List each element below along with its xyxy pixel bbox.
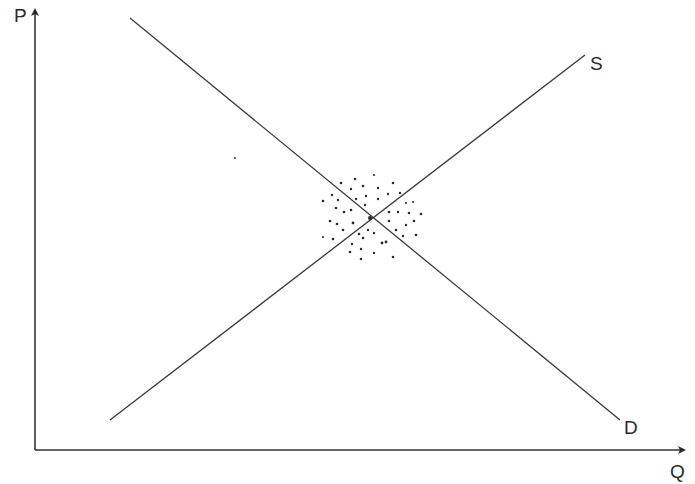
x-axis-label: Q xyxy=(670,461,685,482)
demand-curve xyxy=(130,18,620,420)
demand-label: D xyxy=(624,417,638,438)
y-axis-label: P xyxy=(14,5,27,26)
supply-demand-diagram: P Q S D xyxy=(0,0,695,484)
supply-label: S xyxy=(590,53,603,74)
supply-curve xyxy=(110,55,585,420)
stray-dot xyxy=(234,157,236,159)
